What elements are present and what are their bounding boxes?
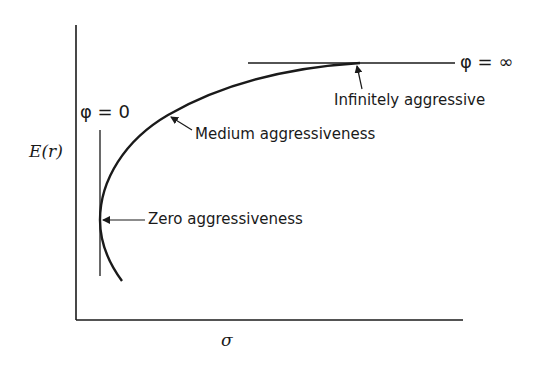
infinitely-aggressive-label: Infinitely aggressive bbox=[334, 93, 485, 108]
medium-aggressiveness-label: Medium aggressiveness bbox=[195, 127, 375, 142]
x-axis-label: σ bbox=[221, 332, 233, 349]
infinite-arrow bbox=[357, 66, 362, 89]
phi-zero-label: φ = 0 bbox=[80, 103, 130, 121]
frontier-curve bbox=[100, 63, 360, 281]
zero-aggressiveness-label: Zero aggressiveness bbox=[148, 212, 303, 227]
phi-infinity-label: φ = ∞ bbox=[460, 53, 513, 71]
medium-arrow bbox=[171, 117, 192, 130]
y-axis-label: E(r) bbox=[29, 143, 63, 160]
